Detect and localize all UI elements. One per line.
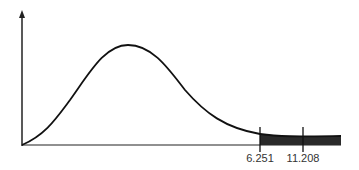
y-axis-arrow-icon — [19, 10, 25, 18]
tick-label-6-251: 6.251 — [246, 152, 274, 164]
density-chart — [0, 0, 359, 170]
tick-label-11-208: 11.208 — [287, 152, 320, 164]
density-curve — [22, 45, 341, 145]
